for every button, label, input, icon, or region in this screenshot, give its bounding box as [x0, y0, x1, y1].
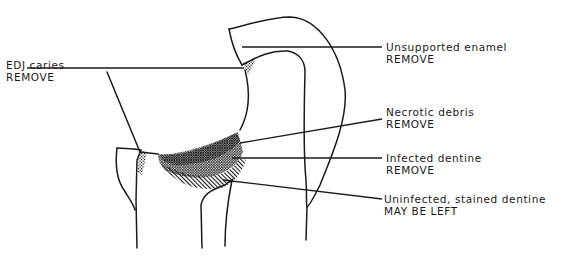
label-necrotic-debris-action: REMOVE: [386, 118, 474, 130]
cavity-wall: [240, 70, 249, 130]
right-tooth-inner-outline: [242, 51, 307, 240]
label-edj-caries: EDJ caries REMOVE: [6, 59, 65, 83]
label-infected-dentine-title: Infected dentine: [386, 152, 482, 164]
tooth-cavity-diagram: [0, 0, 564, 258]
label-uninfected-dentine-title: Uninfected, stained dentine: [384, 193, 546, 205]
uninfected-dentine-leader: [223, 180, 382, 199]
left-tooth-enamel: [116, 148, 135, 210]
label-infected-dentine: Infected dentine REMOVE: [386, 152, 482, 176]
label-necrotic-debris: Necrotic debris REMOVE: [386, 106, 474, 130]
label-unsupported-enamel-title: Unsupported enamel: [386, 41, 507, 53]
unsupported-enamel-edge: [229, 29, 242, 65]
label-unsupported-enamel-action: REMOVE: [386, 53, 507, 65]
necrotic-debris-leader: [240, 119, 382, 143]
left-edj-caries-zone: [138, 150, 147, 175]
cavity-left-wall: [107, 72, 140, 152]
label-unsupported-enamel: Unsupported enamel REMOVE: [386, 41, 507, 65]
label-necrotic-debris-title: Necrotic debris: [386, 106, 474, 118]
pulp-outline-left: [201, 179, 233, 248]
label-infected-dentine-action: REMOVE: [386, 164, 482, 176]
label-uninfected-dentine: Uninfected, stained dentine MAY BE LEFT: [384, 193, 546, 217]
label-edj-caries-title: EDJ caries: [6, 59, 65, 71]
label-edj-caries-action: REMOVE: [6, 71, 65, 83]
label-uninfected-dentine-action: MAY BE LEFT: [384, 205, 546, 217]
pulp-outline-right: [225, 180, 232, 246]
